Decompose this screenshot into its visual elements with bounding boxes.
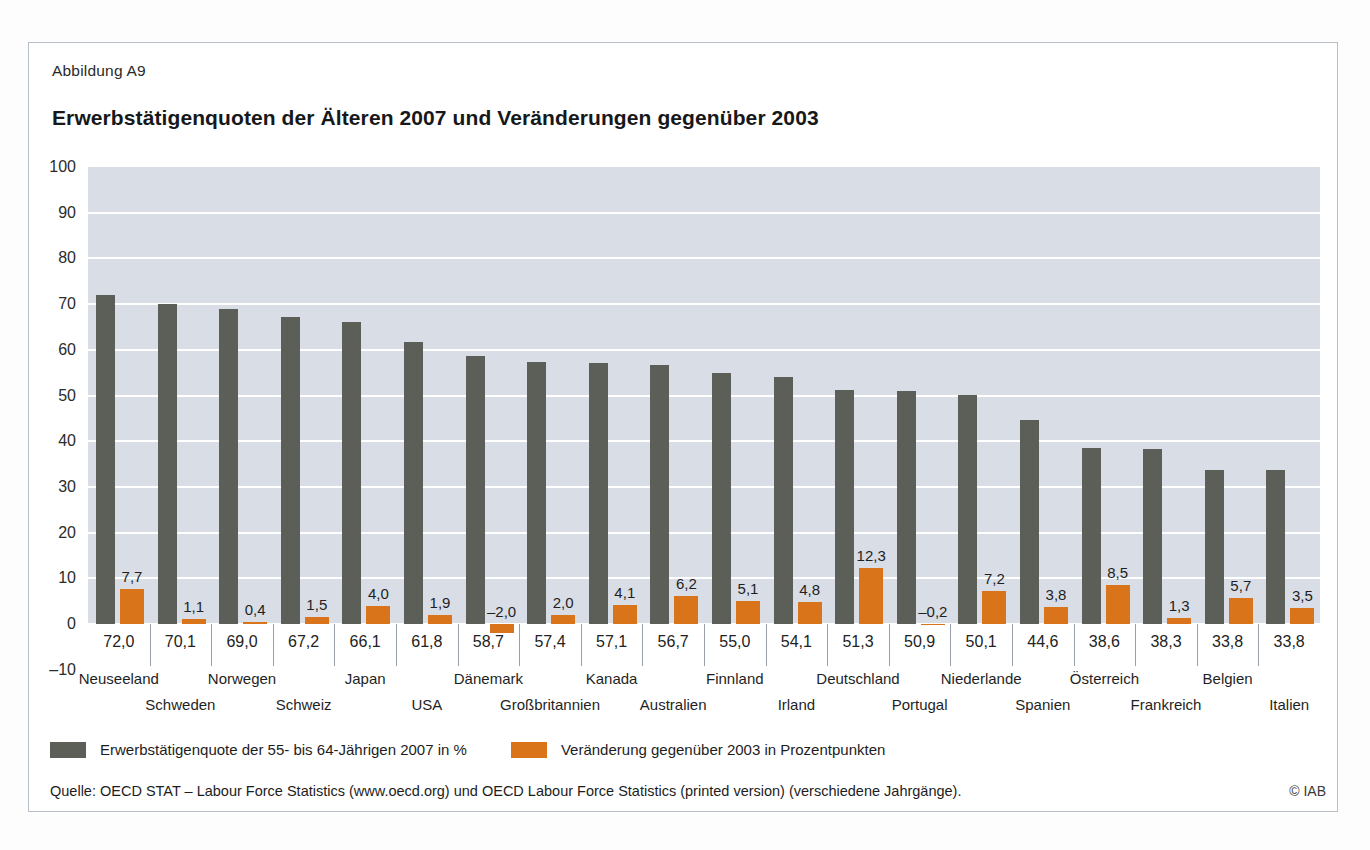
bar-value-label-change: 2,0 xyxy=(553,594,574,611)
source-note: Quelle: OECD STAT – Labour Force Statist… xyxy=(50,783,961,799)
bar-change xyxy=(428,615,452,624)
bar-group: 4,8 xyxy=(766,167,828,624)
bar-group: 1,9 xyxy=(396,167,458,624)
bar-value-label-change: 8,5 xyxy=(1107,564,1128,581)
bar-change xyxy=(551,615,575,624)
bar-employment-rate xyxy=(1205,470,1224,624)
value-cell-separator xyxy=(642,624,643,666)
y-axis-tick-label: 0 xyxy=(67,615,76,633)
value-cell: 66,1 xyxy=(334,624,396,666)
value-cell-separator xyxy=(827,624,828,666)
category-label: Spanien xyxy=(1015,696,1070,713)
bar-group: 1,5 xyxy=(273,167,335,624)
value-cell-separator xyxy=(150,624,151,666)
value-cell-separator xyxy=(1074,624,1075,666)
legend-swatch-gray xyxy=(50,742,86,758)
bar-value-label-employment-rate: 54,1 xyxy=(781,633,812,651)
bar-employment-rate xyxy=(96,295,115,624)
legend-item-change: Veränderung gegenüber 2003 in Prozentpun… xyxy=(511,741,885,758)
figure-page: Abbildung A9 Erwerbstätigenquoten der Äl… xyxy=(0,0,1370,850)
figure-label: Abbildung A9 xyxy=(52,62,146,80)
bar-value-label-employment-rate: 38,3 xyxy=(1150,633,1181,651)
bar-value-label-employment-rate: 72,0 xyxy=(103,633,134,651)
value-cell: 56,7 xyxy=(642,624,704,666)
bar-group: 7,2 xyxy=(950,167,1012,624)
bar-employment-rate xyxy=(1266,470,1285,624)
bar-change xyxy=(1229,598,1253,624)
bar-employment-rate xyxy=(219,309,238,624)
bar-value-label-employment-rate: 38,6 xyxy=(1089,633,1120,651)
bar-employment-rate xyxy=(712,373,731,624)
bar-value-label-change: 3,8 xyxy=(1046,586,1067,603)
bar-group: –0,2 xyxy=(889,167,951,624)
value-cell: 69,0 xyxy=(211,624,273,666)
bar-employment-rate xyxy=(1143,449,1162,624)
legend-swatch-orange xyxy=(511,742,547,758)
bar-value-label-employment-rate: 61,8 xyxy=(411,633,442,651)
bar-employment-rate xyxy=(158,304,177,624)
value-cell-separator xyxy=(950,624,951,666)
bar-value-label-employment-rate: 55,0 xyxy=(719,633,750,651)
value-cell-separator xyxy=(211,624,212,666)
y-axis-tick-label: 40 xyxy=(58,432,76,450)
bar-value-label-employment-rate: 57,1 xyxy=(596,633,627,651)
category-label: Großbritannien xyxy=(500,696,600,713)
bar-group: –2,0 xyxy=(458,167,520,624)
category-labels: NeuseelandSchwedenNorwegenSchweizJapanUS… xyxy=(88,668,1320,724)
category-label: Japan xyxy=(345,670,386,687)
bar-group: 6,2 xyxy=(642,167,704,624)
value-cell: 57,4 xyxy=(519,624,581,666)
bar-value-label-change: 0,4 xyxy=(245,601,266,618)
bar-series-container: 7,71,10,41,54,01,9–2,02,04,16,25,14,812,… xyxy=(88,167,1320,624)
value-cell: 70,1 xyxy=(150,624,212,666)
bar-value-label-employment-rate: 51,3 xyxy=(842,633,873,651)
bar-change xyxy=(120,589,144,624)
bar-employment-rate xyxy=(1082,448,1101,624)
bar-change xyxy=(613,605,637,624)
bar-employment-rate xyxy=(835,390,854,624)
bar-value-label-employment-rate: 44,6 xyxy=(1027,633,1058,651)
y-axis-tick-label: 90 xyxy=(58,204,76,222)
bar-change xyxy=(798,602,822,624)
category-label: Norwegen xyxy=(208,670,276,687)
bar-group: 8,5 xyxy=(1074,167,1136,624)
value-cell-separator xyxy=(458,624,459,666)
value-cell: 72,0 xyxy=(88,624,150,666)
value-cell: 55,0 xyxy=(704,624,766,666)
bar-group: 7,7 xyxy=(88,167,150,624)
value-cell: 61,8 xyxy=(396,624,458,666)
bar-value-label-change: 4,1 xyxy=(614,584,635,601)
bar-employment-rate xyxy=(897,391,916,624)
bar-employment-rate xyxy=(404,342,423,624)
legend-label-employment-rate: Erwerbstätigenquote der 55- bis 64-Jähri… xyxy=(100,741,467,758)
value-cell-separator xyxy=(334,624,335,666)
bar-group: 5,7 xyxy=(1197,167,1259,624)
category-label: Italien xyxy=(1269,696,1309,713)
bar-employment-rate xyxy=(650,365,669,624)
bar-value-label-change: 1,1 xyxy=(183,598,204,615)
bar-value-label-change: 7,2 xyxy=(984,570,1005,587)
bar-group: 1,3 xyxy=(1135,167,1197,624)
bar-employment-rate xyxy=(281,317,300,624)
value-cell: 67,2 xyxy=(273,624,335,666)
value-cell: 38,3 xyxy=(1135,624,1197,666)
bar-value-label-change: 1,5 xyxy=(306,596,327,613)
category-label: Schweden xyxy=(145,696,215,713)
bar-value-label-change: 1,3 xyxy=(1169,597,1190,614)
value-cell: 50,1 xyxy=(950,624,1012,666)
value-cell-separator xyxy=(1258,624,1259,666)
value-cell: 44,6 xyxy=(1012,624,1074,666)
value-cell-separator xyxy=(396,624,397,666)
category-label: Kanada xyxy=(586,670,638,687)
y-axis-tick-label: 30 xyxy=(58,478,76,496)
value-cell-separator xyxy=(1012,624,1013,666)
bar-group: 3,5 xyxy=(1258,167,1320,624)
bar-change xyxy=(859,568,883,624)
bar-value-label-employment-rate: 58,7 xyxy=(473,633,504,651)
value-cell-separator xyxy=(704,624,705,666)
category-label: Australien xyxy=(640,696,707,713)
bar-value-label-change: 1,9 xyxy=(430,594,451,611)
bar-employment-rate xyxy=(774,377,793,624)
legend-item-employment-rate: Erwerbstätigenquote der 55- bis 64-Jähri… xyxy=(50,741,467,758)
bar-value-label-employment-rate: 70,1 xyxy=(165,633,196,651)
